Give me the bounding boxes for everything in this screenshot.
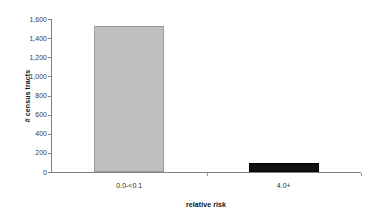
y-axis-tick-mark [48,172,51,173]
y-axis-tick-mark [48,76,51,77]
x-axis-line [51,172,361,173]
y-axis-tick-label: 600 [20,111,47,118]
x-axis-tick-label: 4.0+ [244,182,324,190]
y-axis-tick-mark [48,19,51,20]
y-axis-tick-label: 200 [20,149,47,156]
y-axis-tick-mark [48,115,51,116]
bar-1 [249,163,319,172]
y-axis-tick-label: 1,400 [20,35,47,42]
y-axis-tick-label: 400 [20,130,47,137]
x-axis-tick-mark [207,173,208,176]
y-axis-tick-mark [48,153,51,154]
plot-area [52,19,361,172]
y-axis-tick-labels: 02004006008001,0001,2001,4001,600 [20,0,47,219]
y-axis-tick-label: 800 [20,92,47,99]
y-axis-tick-mark [48,134,51,135]
y-axis-tick-label: 1,000 [20,73,47,80]
y-axis-tick-label: 1,600 [20,16,47,23]
bar-chart: # census tracts 02004006008001,0001,2001… [0,0,373,219]
x-axis-title: relative risk [51,201,361,208]
y-axis-tick-label: 1,200 [20,54,47,61]
x-axis-tick-mark [361,173,362,176]
y-axis-tick-label: 0 [20,169,47,176]
x-axis-tick-label: 0.0-<0.1 [89,182,169,190]
y-axis-tick-mark [48,96,51,97]
bar-0 [94,26,164,172]
y-axis-tick-mark [48,57,51,58]
y-axis-tick-mark [48,38,51,39]
